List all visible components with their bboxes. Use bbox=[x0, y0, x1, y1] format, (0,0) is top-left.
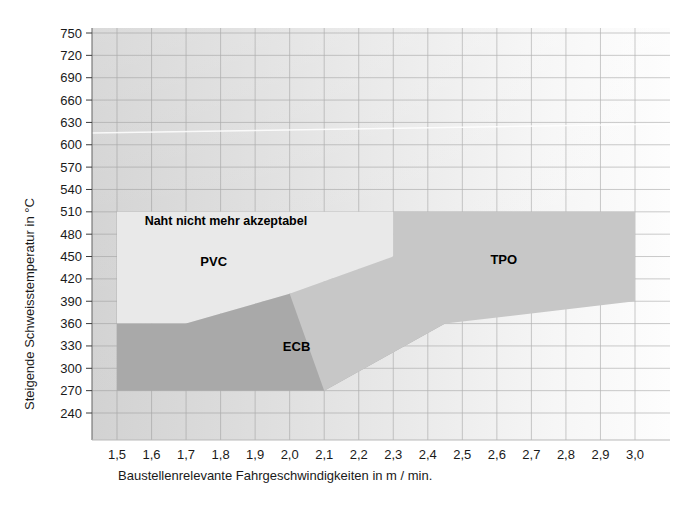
y-tick-label: 300 bbox=[60, 361, 82, 376]
x-axis-title: Baustellenrelevante Fahrgeschwindigkeite… bbox=[118, 468, 432, 483]
x-tick-label: 2,9 bbox=[591, 447, 609, 462]
y-tick-label: 480 bbox=[60, 227, 82, 242]
annotation-pvc: PVC bbox=[200, 254, 227, 269]
y-tick-label: 270 bbox=[60, 383, 82, 398]
x-tick-label: 1,8 bbox=[212, 447, 230, 462]
y-tick-label: 390 bbox=[60, 294, 82, 309]
y-tick-label: 750 bbox=[60, 26, 82, 41]
x-tick-label: 2,5 bbox=[453, 447, 471, 462]
x-tick-label: 2,4 bbox=[419, 447, 437, 462]
x-tick-label: 1,6 bbox=[142, 447, 160, 462]
x-tick-label: 2,0 bbox=[281, 447, 299, 462]
y-tick-label: 720 bbox=[60, 48, 82, 63]
y-axis-title: Steigende Schweisstemperatur in °C bbox=[22, 198, 37, 410]
y-tick-label: 330 bbox=[60, 338, 82, 353]
y-axis-tick-labels: 2402703003303603904204504805105405706006… bbox=[60, 26, 82, 421]
annotation-ecb: ECB bbox=[283, 339, 310, 354]
welding-temperature-chart: 2402703003303603904204504805105405706006… bbox=[0, 0, 692, 506]
y-tick-label: 450 bbox=[60, 249, 82, 264]
x-tick-label: 1,7 bbox=[177, 447, 195, 462]
x-tick-label: 2,8 bbox=[557, 447, 575, 462]
x-tick-label: 2,6 bbox=[488, 447, 506, 462]
y-tick-label: 660 bbox=[60, 93, 82, 108]
x-tick-label: 2,2 bbox=[350, 447, 368, 462]
chart-container: 2402703003303603904204504805105405706006… bbox=[0, 0, 692, 506]
annotation-tpo: TPO bbox=[490, 252, 517, 267]
y-tick-label: 600 bbox=[60, 137, 82, 152]
annotation-naht: Naht nicht mehr akzeptabel bbox=[145, 214, 308, 228]
y-tick-label: 420 bbox=[60, 271, 82, 286]
y-tick-label: 570 bbox=[60, 160, 82, 175]
x-tick-label: 2,3 bbox=[384, 447, 402, 462]
y-tick-label: 360 bbox=[60, 316, 82, 331]
y-tick-label: 240 bbox=[60, 406, 82, 421]
x-tick-label: 2,1 bbox=[315, 447, 333, 462]
x-tick-label: 3,0 bbox=[626, 447, 644, 462]
y-tick-label: 630 bbox=[60, 115, 82, 130]
x-tick-label: 1,9 bbox=[246, 447, 264, 462]
y-tick-label: 540 bbox=[60, 182, 82, 197]
x-axis-tick-labels: 1,51,61,71,81,92,02,12,22,32,42,52,62,72… bbox=[108, 447, 644, 462]
y-tick-label: 510 bbox=[60, 204, 82, 219]
y-axis-ticks bbox=[86, 33, 92, 413]
x-tick-label: 1,5 bbox=[108, 447, 126, 462]
x-tick-label: 2,7 bbox=[522, 447, 540, 462]
y-tick-label: 690 bbox=[60, 70, 82, 85]
